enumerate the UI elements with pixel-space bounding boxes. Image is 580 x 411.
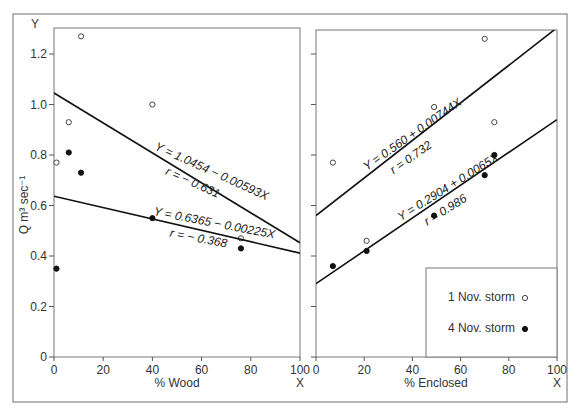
filled-circle-marker-icon: [522, 326, 527, 331]
x-tick-label: 20: [358, 363, 372, 377]
data-point: [78, 170, 83, 175]
x-tick-label: 20: [97, 363, 111, 377]
right-x-axis-letter: X: [553, 376, 561, 390]
left-x-axis-letter: X: [296, 376, 304, 390]
y-axis-label: Q m³ sec⁻¹: [17, 176, 31, 235]
y-tick-label: 1.2: [30, 47, 47, 61]
x-tick-label: 80: [244, 363, 258, 377]
x-tick-label: 100: [547, 363, 567, 377]
data-point: [492, 152, 497, 157]
legend: 1 Nov. storm 4 Nov. storm: [426, 268, 557, 357]
x-tick-label: 40: [146, 363, 160, 377]
right-x-axis-label: % Enclosed: [404, 376, 467, 390]
data-point: [364, 238, 369, 243]
y-tick-label: 0.4: [30, 249, 47, 263]
x-tick-label: 80: [502, 363, 516, 377]
legend-box: [426, 268, 557, 357]
x-tick-label: 0: [313, 363, 320, 377]
data-point: [66, 150, 71, 155]
legend-label-4-nov: 4 Nov. storm: [448, 321, 515, 335]
data-point: [66, 120, 71, 125]
x-tick-label: 60: [195, 363, 209, 377]
x-tick-label: 40: [406, 363, 420, 377]
data-point: [482, 173, 487, 178]
data-point: [150, 216, 155, 221]
y-tick-label: 0.2: [30, 300, 47, 314]
data-point: [431, 104, 436, 109]
data-point: [238, 246, 243, 251]
legend-label-1-nov: 1 Nov. storm: [448, 290, 515, 304]
data-point: [150, 102, 155, 107]
x-tick-label: 100: [290, 363, 310, 377]
figure: 02040608010000.20.40.60.81.01.2 02040608…: [0, 0, 580, 411]
data-point: [78, 34, 83, 39]
regression-label: Y = 0.6365 − 0.00225Xr = − 0.368: [149, 204, 277, 259]
y-tick-label: 1.0: [30, 98, 47, 112]
data-point: [482, 36, 487, 41]
y-tick-label: 0.8: [30, 148, 47, 162]
data-point: [431, 213, 436, 218]
y-tick-label: 0.6: [30, 199, 47, 213]
data-point: [330, 160, 335, 165]
y-tick-label: 0: [40, 350, 47, 364]
open-circle-marker-icon: [522, 295, 527, 300]
data-point: [54, 160, 59, 165]
x-tick-label: 60: [454, 363, 468, 377]
y-axis-letter: Y: [31, 17, 39, 31]
data-point: [54, 266, 59, 271]
right-plot-content: Y = 0.560 + 0.00744Xr = 0.732Y = 0.2904 …: [316, 28, 557, 284]
left-x-axis-label: % Wood: [154, 376, 199, 390]
data-point: [364, 248, 369, 253]
data-point: [330, 264, 335, 269]
x-tick-label: 0: [51, 363, 58, 377]
data-point: [492, 120, 497, 125]
left-plot-content: Y = 1.0454 − 0.00593Xr = − 0.631Y = 0.63…: [54, 34, 300, 272]
